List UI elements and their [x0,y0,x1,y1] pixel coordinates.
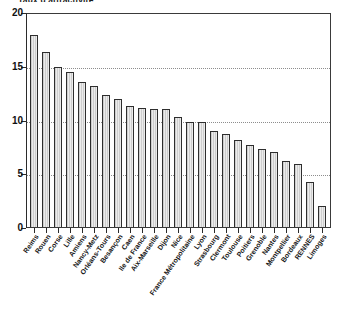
y-axis-tick-label: 15 [12,62,23,72]
bar-slot [304,14,316,227]
bar-slot [268,14,280,227]
bar-series [27,14,330,227]
bar [186,122,194,227]
bar [90,86,98,227]
bar [126,106,134,227]
bar-slot [136,14,148,227]
bar [78,82,86,227]
bar-slot [100,14,112,227]
bar-slot [316,14,328,227]
bar [138,108,146,227]
bar-slot [196,14,208,227]
bar-slot [64,14,76,227]
bar [270,152,278,227]
bar [42,52,50,227]
bar [306,182,314,227]
bar-slot [148,14,160,227]
bar-slot [160,14,172,227]
y-axis-tick-label: 0 [17,223,23,233]
bar-slot [292,14,304,227]
bar-slot [112,14,124,227]
bar [30,35,38,227]
bar [246,145,254,227]
bar-slot [40,14,52,227]
bar [198,122,206,227]
x-axis-labels: ReimsRouenCorseLilleAmiensNancy-MetzOrlé… [27,233,330,313]
bar-slot [184,14,196,227]
chart-container: Taux d'attractivité 05101520 ReimsRouenC… [0,0,337,313]
bar [258,149,266,227]
bar-slot [88,14,100,227]
bar [54,67,62,227]
bar [318,206,326,227]
bar-slot [28,14,40,227]
bar [222,134,230,227]
y-axis-tick-label: 20 [12,8,23,18]
bar-slot [244,14,256,227]
bar-slot [52,14,64,227]
y-axis-tick-label: 10 [12,116,23,126]
bar [66,72,74,227]
bar [102,95,110,227]
bar-slot [220,14,232,227]
bar [114,99,122,227]
bar [282,161,290,227]
bar-slot [208,14,220,227]
bar [234,140,242,227]
bar [150,109,158,227]
bar [162,109,170,227]
bar-slot [124,14,136,227]
bar [210,131,218,227]
bar-slot [76,14,88,227]
bar [174,117,182,227]
chart-title: Taux d'attractivité [18,0,94,2]
bar-slot [280,14,292,227]
bar-slot [172,14,184,227]
bar [294,164,302,227]
x-axis-label: Limoges [316,233,328,313]
bar-slot [256,14,268,227]
bar-slot [232,14,244,227]
y-axis-tick-label: 5 [17,169,23,179]
